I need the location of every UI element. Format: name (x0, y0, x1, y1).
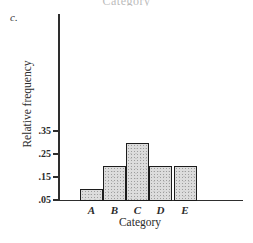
bar-E (174, 166, 197, 202)
category-label-C: C (134, 204, 141, 216)
ytick-mark-05 (53, 199, 59, 201)
category-label-E: E (181, 204, 188, 216)
ytick-mark-25 (53, 153, 59, 155)
ytick-mark-15 (53, 176, 59, 178)
ytick-label-35: .35 (27, 125, 51, 136)
ytick-label-05: .05 (27, 194, 51, 205)
category-label-D: D (157, 204, 165, 216)
ytick-mark-35 (53, 130, 59, 132)
ytick-label-25: .25 (27, 148, 51, 159)
x-axis-label: Category (119, 216, 161, 228)
category-label-A: A (88, 204, 95, 216)
part-label-c: c. (10, 11, 18, 23)
bar-C (126, 143, 149, 202)
bar-D (149, 166, 172, 202)
clipped-previous-chart-title: Category (0, 0, 253, 6)
category-label-B: B (111, 204, 118, 216)
bar-A (80, 189, 103, 202)
clipped-category-text: Category (103, 0, 151, 6)
histogram-figure: Category c. Relative frequency Category … (0, 0, 253, 243)
y-axis-line (58, 14, 60, 201)
ytick-label-15: .15 (27, 171, 51, 182)
bar-B (103, 166, 126, 202)
